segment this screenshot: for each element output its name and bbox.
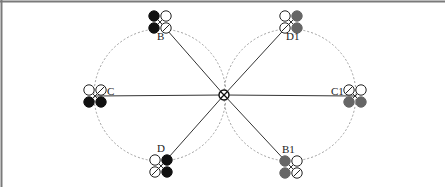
rotor-tr-icon	[162, 155, 172, 165]
center-hub-icon	[219, 90, 229, 100]
rotor-bl-icon	[84, 97, 94, 107]
rotor-bl-icon	[344, 97, 354, 107]
line-to-D	[161, 95, 224, 166]
label-C: C	[107, 85, 114, 97]
rotor-tr-icon	[161, 11, 171, 21]
diagram-frame: BCDD1C1B1	[0, 0, 445, 187]
line-to-B1	[224, 95, 291, 167]
rotor-br-icon	[96, 97, 106, 107]
rotor-tl-icon	[280, 156, 290, 166]
label-B: B	[157, 30, 164, 42]
formation-diagram: BCDD1C1B1	[0, 0, 445, 187]
rotor-tl-icon	[149, 11, 159, 21]
rotor-br-icon	[162, 167, 172, 177]
rotor-tr-icon	[292, 11, 302, 21]
rotor-tr-icon	[356, 85, 366, 95]
label-D: D	[157, 142, 165, 154]
rotor-bl-icon	[280, 168, 290, 178]
label-B1: B1	[282, 143, 295, 155]
drone-B1-icon	[280, 156, 302, 178]
rotor-tl-icon	[280, 11, 290, 21]
line-to-D1	[224, 22, 291, 95]
rotor-br-icon	[356, 97, 366, 107]
rotor-tl-icon	[150, 155, 160, 165]
drone-D-icon	[150, 155, 172, 177]
line-to-B	[160, 22, 224, 95]
rotor-tl-icon	[84, 85, 94, 95]
line-to-C	[95, 95, 224, 96]
rotor-tr-icon	[292, 156, 302, 166]
label-C1: C1	[331, 85, 344, 97]
label-D1: D1	[286, 30, 299, 42]
